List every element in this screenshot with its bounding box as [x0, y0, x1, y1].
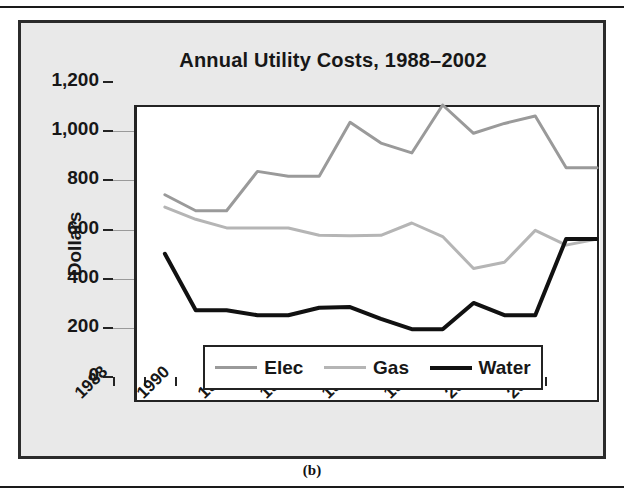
y-axis-tick [103, 327, 113, 329]
y-axis-tick [103, 278, 113, 280]
x-axis-tick [545, 377, 547, 386]
legend-line-swatch [430, 366, 472, 370]
legend-label: Elec [264, 357, 303, 379]
legend-line-swatch [215, 366, 257, 369]
legend-line-swatch [324, 366, 366, 369]
y-axis-tick-label: 600 [21, 217, 99, 239]
chart-title: Annual Utility Costs, 1988–2002 [21, 49, 624, 72]
y-axis-tick-label: 1,000 [21, 118, 99, 140]
y-axis-tick [103, 229, 113, 231]
x-axis-tick [175, 377, 177, 386]
chart-figure-frame: Annual Utility Costs, 1988–2002 Dollars … [18, 20, 606, 459]
legend-label: Water [479, 357, 531, 379]
y-axis-tick [103, 130, 113, 132]
y-axis-tick-label: 200 [21, 315, 99, 337]
page-top-rule [0, 6, 624, 8]
y-axis-tick-label: 800 [21, 167, 99, 189]
y-axis-tick [103, 179, 113, 181]
figure-caption: (b) [0, 462, 624, 479]
chart-legend: ElecGasWater [203, 345, 543, 390]
legend-label: Gas [373, 357, 409, 379]
page-bottom-rule [0, 486, 624, 488]
y-axis-tick [103, 81, 113, 83]
y-axis-tick-label: 1,200 [21, 69, 99, 91]
figure-page: Annual Utility Costs, 1988–2002 Dollars … [0, 0, 624, 499]
x-axis-line [134, 400, 599, 402]
x-axis-tick [113, 377, 115, 386]
legend-item-gas[interactable]: Gas [324, 357, 409, 379]
plot-right-border [597, 105, 599, 400]
y-axis-tick-label: 400 [21, 266, 99, 288]
legend-item-water[interactable]: Water [430, 357, 531, 379]
legend-item-elec[interactable]: Elec [215, 357, 303, 379]
